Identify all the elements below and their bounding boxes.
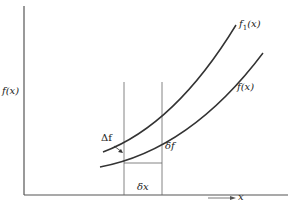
- y-axis-label: f(x): [2, 85, 19, 96]
- diagram-canvas: f(x) f1(x) f(x) Δf δf δx x: [0, 0, 290, 212]
- curve-f1: [103, 25, 236, 152]
- x-direction-arrowhead-icon: [230, 196, 236, 200]
- curve-f1-label-arg: (x): [247, 18, 260, 29]
- curve-f-label: f(x): [237, 81, 254, 92]
- curve-f1-label: f1(x): [239, 18, 261, 32]
- big-delta-f-label: Δf: [101, 132, 112, 143]
- x-axis-label: x: [238, 191, 244, 202]
- curve-f: [100, 53, 263, 167]
- small-delta-f-label: δf: [165, 140, 175, 151]
- small-delta-x-label: δx: [137, 181, 149, 192]
